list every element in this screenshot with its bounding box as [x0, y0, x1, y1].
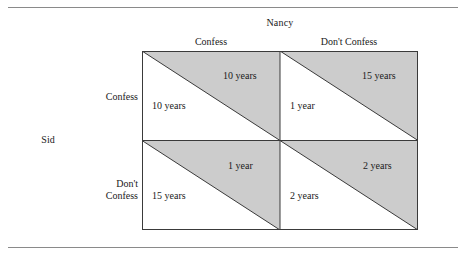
- payoff-matrix-figure: Nancy Confess Don't Confess Sid Confess …: [0, 0, 466, 261]
- row-header-dont-confess-line2: Confess: [68, 190, 138, 202]
- payoff-r2c1-row: 15 years: [152, 190, 186, 201]
- payoff-r2c1-column: 1 year: [228, 160, 253, 171]
- column-header-confess: Confess: [142, 36, 280, 47]
- payoff-r2c2-row: 2 years: [290, 190, 319, 201]
- payoff-r2c2-column: 2 years: [363, 160, 392, 171]
- row-header-dont-confess-wrap: Don't Confess: [66, 177, 138, 203]
- top-rule: [8, 7, 458, 8]
- column-header-dont-confess: Don't Confess: [280, 36, 418, 47]
- row-header-confess-wrap: Confess: [66, 84, 138, 110]
- payoff-r1c1-column: 10 years: [223, 70, 257, 81]
- payoff-r1c1-row: 10 years: [152, 100, 186, 111]
- row-header-dont-confess: Don't Confess: [68, 178, 138, 202]
- row-header-confess-line1: Confess: [68, 91, 138, 103]
- bottom-rule: [8, 247, 458, 248]
- row-player-label: Sid: [18, 134, 78, 145]
- payoff-r1c2-column: 15 years: [362, 70, 396, 81]
- payoff-r1c2-row: 1 year: [290, 100, 315, 111]
- column-player-label: Nancy: [142, 17, 418, 28]
- row-header-dont-confess-line1: Don't: [68, 178, 138, 190]
- row-header-confess: Confess: [68, 91, 138, 103]
